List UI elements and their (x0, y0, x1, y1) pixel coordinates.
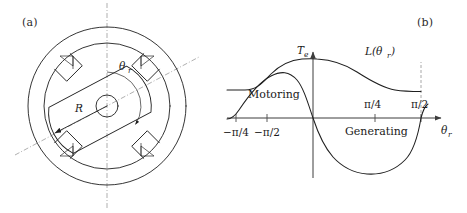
tick-label-neg-pi-2: −π/2 (254, 126, 280, 138)
inductance-curve-label-tail: ) (390, 45, 395, 57)
x-axis-label: θ (441, 124, 448, 136)
x-axis-sublabel: r (448, 130, 452, 139)
stator-pole (132, 54, 160, 82)
inductance-curve-label: L(θ (364, 45, 383, 57)
stator-pole-body (55, 54, 83, 82)
motoring-region-label: Motoring (248, 88, 300, 101)
figure-container: (a) (0, 0, 467, 213)
torque-inductance-chart-svg: T e θ r L(θ r ) (205, 0, 467, 213)
rotor-angle-arc (107, 72, 141, 125)
stator-pole-body (55, 131, 83, 159)
rotor-angle-sublabel: r (128, 66, 132, 75)
stator-pole-body (132, 54, 160, 82)
stator-pole-body (132, 131, 160, 159)
tick-label-pi-4: π/4 (364, 98, 381, 110)
y-axis-sublabel: e (304, 50, 309, 59)
generating-region-label: Generating (345, 125, 408, 138)
stator-pole (55, 54, 83, 82)
panel-a-label: (a) (22, 16, 38, 29)
inductance-curve (227, 59, 421, 92)
x-axis-label-group: θ r (441, 124, 452, 139)
radius-label: R (74, 102, 83, 114)
tick-label-neg-pi-4: −π/4 (223, 126, 249, 138)
rotor-angle-label: θ (119, 60, 126, 72)
panel-b-torque-plot: (b) T e θ r (205, 0, 467, 213)
chart-area: T e θ r L(θ r ) (223, 44, 452, 178)
motor-diagram-svg: θ r R (0, 0, 215, 213)
tick-label-pi-2: π/2 (411, 98, 428, 110)
panel-a-motor-cross-section: (a) (0, 0, 215, 213)
panel-b-label: (b) (417, 16, 433, 29)
inductance-curve-label-group: L(θ r ) (364, 45, 395, 60)
stator-pole (55, 131, 83, 159)
stator-pole (132, 131, 160, 159)
y-axis-label-group: T e (297, 44, 309, 59)
